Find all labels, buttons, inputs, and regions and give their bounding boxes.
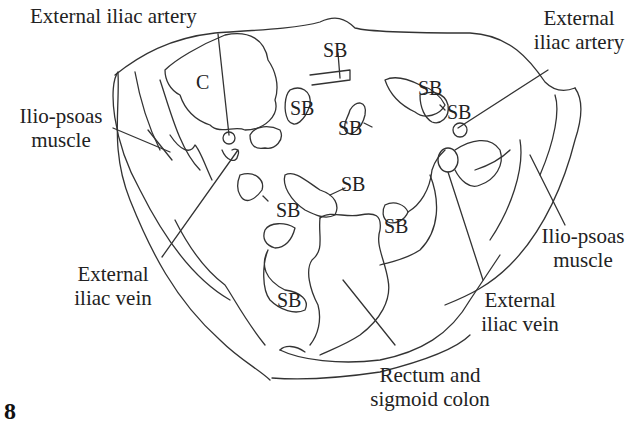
label-line-1: External: [520, 6, 638, 30]
mark-small-bowel: SB: [384, 216, 408, 236]
mark-cecum: C: [196, 72, 209, 92]
cross-section-drawing: [0, 0, 643, 430]
label-line-2: muscle: [6, 128, 116, 152]
label-line-1: Ilio-psoas: [6, 104, 116, 128]
label-line-1: Ilio-psoas: [528, 224, 638, 248]
label-external-iliac-artery-right: External iliac artery: [520, 6, 638, 54]
figure-number: 8: [4, 398, 16, 425]
label-line-2: iliac vein: [58, 286, 168, 310]
mark-small-bowel: SB: [323, 40, 347, 60]
label-external-iliac-vein-left: External iliac vein: [58, 262, 168, 310]
label-external-iliac-vein-right: External iliac vein: [465, 288, 575, 336]
mark-small-bowel: SB: [418, 78, 442, 98]
mark-small-bowel: SB: [341, 174, 365, 194]
label-line-1: External: [465, 288, 575, 312]
mark-small-bowel: SB: [338, 118, 362, 138]
anatomy-figure: External iliac artery External iliac art…: [0, 0, 643, 430]
label-line-1: External: [58, 262, 168, 286]
leader-rectum: [343, 280, 395, 345]
label-line-2: iliac artery: [520, 30, 638, 54]
cecum-outline: [165, 34, 277, 130]
label-line-2: muscle: [528, 248, 638, 272]
label-iliopsoas-right: Ilio-psoas muscle: [528, 224, 638, 272]
leader-vein-left: [162, 150, 238, 257]
label-line-1: Rectum and: [355, 363, 505, 387]
mark-small-bowel: SB: [276, 200, 300, 220]
mark-small-bowel: SB: [290, 98, 314, 118]
label-iliopsoas-left: Ilio-psoas muscle: [6, 104, 116, 152]
right-iliopsoas: [455, 141, 501, 187]
label-line-2: sigmoid colon: [355, 387, 505, 411]
mark-small-bowel: SB: [447, 102, 471, 122]
rectum-outline: [320, 214, 389, 355]
label-rectum-sigmoid-colon: Rectum and sigmoid colon: [355, 363, 505, 411]
leader-iliopsoas-right: [530, 155, 565, 225]
leader-artery-right: [458, 70, 548, 128]
label-line-2: iliac vein: [465, 312, 575, 336]
mark-small-bowel: SB: [277, 290, 301, 310]
label-external-iliac-artery-left: External iliac artery: [30, 4, 197, 28]
leader-vein-right: [448, 172, 483, 280]
